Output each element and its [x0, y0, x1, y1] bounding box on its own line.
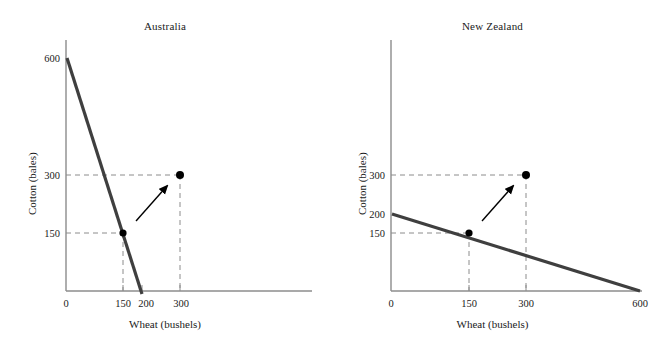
figure-canvas: Australia Cotton (bales) Wheat (bushels): [0, 0, 655, 350]
x-ticklabel-300-australia: 300: [173, 298, 189, 309]
y-ticklabel-300-australia: 300: [44, 170, 60, 181]
ppf-line-new-zealand: [392, 214, 640, 291]
x-ticklabel-0-australia: 0: [63, 298, 68, 309]
trade-gain-arrow-australia: [136, 186, 167, 221]
y-ticklabel-150-new-zealand: 150: [369, 228, 385, 239]
point-consumption-300-300-australia: [176, 171, 184, 179]
y-ticklabel-200-new-zealand: 200: [369, 209, 385, 220]
y-ticklabel-600-australia: 600: [44, 53, 60, 64]
plot-area-australia: 600 300 150 0 150 200 300: [0, 0, 330, 350]
plot-area-new-zealand: 300 200 150 0 150 300 600: [330, 0, 655, 350]
x-ticklabel-150-new-zealand: 150: [461, 298, 477, 309]
ppf-line-australia: [67, 58, 142, 294]
y-ticklabel-300-new-zealand: 300: [369, 170, 385, 181]
point-consumption-300-300-new-zealand: [522, 171, 530, 179]
x-ticklabel-300-new-zealand: 300: [518, 298, 534, 309]
x-ticklabel-150-australia: 150: [115, 298, 131, 309]
y-ticklabel-150-australia: 150: [44, 228, 60, 239]
point-production-150-150-new-zealand: [465, 229, 472, 236]
x-ticklabel-200-australia: 200: [138, 298, 154, 309]
point-production-150-150-australia: [119, 229, 126, 236]
x-ticklabel-600-new-zealand: 600: [632, 298, 648, 309]
chart-panel-australia: Australia Cotton (bales) Wheat (bushels): [0, 0, 330, 350]
x-ticklabel-0-new-zealand: 0: [388, 298, 393, 309]
trade-gain-arrow-new-zealand: [482, 186, 513, 221]
chart-panel-new-zealand: New Zealand Cotton (bales) Wheat (bushel…: [330, 0, 655, 350]
